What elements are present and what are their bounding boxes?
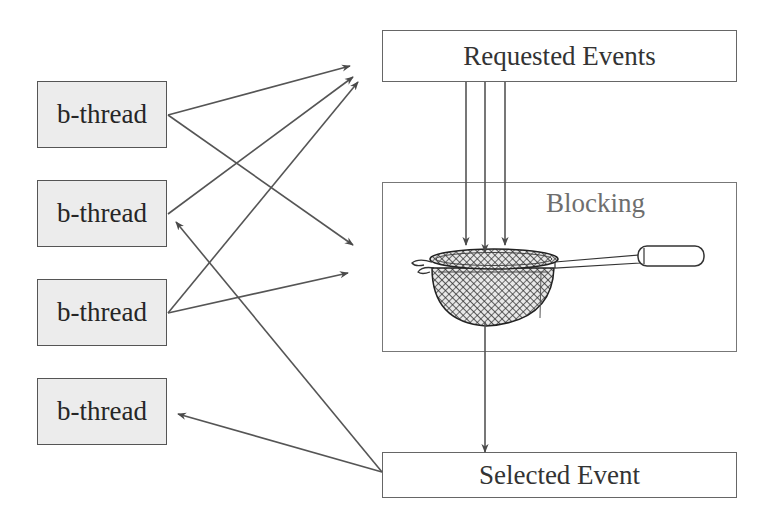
b-thread-label: b-thread [57, 99, 147, 130]
arrow-bthread2-to-requested [168, 77, 353, 214]
requested-events-box: Requested Events [382, 30, 737, 82]
selected-event-label: Selected Event [479, 460, 640, 491]
blocking-label: Blocking [546, 188, 645, 219]
b-thread-label: b-thread [57, 198, 147, 229]
arrow-selected-to-bthread4 [178, 414, 382, 472]
b-thread-box-2: b-thread [37, 180, 167, 247]
arrow-bthread3-to-blocking [168, 273, 348, 313]
selected-event-box: Selected Event [382, 452, 737, 498]
arrow-bthread1-to-blocking [168, 115, 353, 245]
b-thread-box-3: b-thread [37, 279, 167, 346]
arrow-selected-to-bthread2 [176, 222, 382, 472]
requested-events-label: Requested Events [463, 41, 656, 72]
b-thread-label: b-thread [57, 396, 147, 427]
b-thread-box-1: b-thread [37, 81, 167, 148]
arrow-bthread1-to-requested [168, 66, 350, 115]
b-thread-box-4: b-thread [37, 378, 167, 445]
b-thread-label: b-thread [57, 297, 147, 328]
arrow-bthread3-to-requested [168, 82, 358, 313]
